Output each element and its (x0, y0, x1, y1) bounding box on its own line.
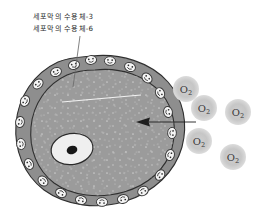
cell (15, 55, 185, 207)
diagram-root: O2 O2 O2 O2 O2 세포막의 수용체-3 세포막의 수용체-6 (0, 0, 261, 221)
annotation-line-1: 세포막의 수용체-3 (33, 12, 93, 21)
annotation-line-2: 세포막의 수용체-6 (33, 24, 94, 33)
o2-molecule-5: O2 (220, 144, 246, 170)
o2-molecule-2: O2 (191, 95, 217, 121)
o2-molecule-4: O2 (186, 128, 212, 154)
membrane-protein (96, 197, 108, 206)
cytoplasm-texture (31, 69, 175, 195)
membrane-protein (104, 56, 116, 66)
cell-diffusion-diagram: O2 O2 O2 O2 O2 세포막의 수용체-3 세포막의 수용체-6 (0, 0, 261, 221)
o2-molecule-3: O2 (225, 99, 251, 125)
o2-molecule-1: O2 (173, 76, 199, 102)
membrane-protein (167, 127, 176, 139)
